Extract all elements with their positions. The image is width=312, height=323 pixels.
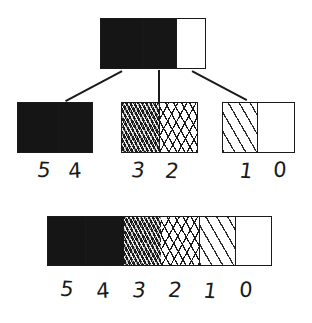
child-left-segment-5 [18,103,58,152]
label-right-0: 0 [271,159,290,181]
label-middle-2: 2 [161,161,182,183]
scale-segment-4 [85,217,123,265]
label-middle-3: 3 [128,160,149,181]
child-left-segment-4 [58,103,92,152]
child-bar-right [222,102,295,153]
child-right-segment-0 [257,103,294,152]
scale-segment-5 [48,217,85,265]
child-middle-segment-3 [122,103,159,152]
root-segment-4 [142,19,177,68]
scale-label-2: 2 [164,280,185,302]
scale-segment-3 [124,217,161,265]
label-left-4: 4 [66,160,85,183]
scale-label-0: 0 [237,279,256,301]
scale-label-4: 4 [94,280,113,303]
root-segment-5 [101,19,142,68]
label-left-5: 5 [33,160,54,182]
connector-line-left [65,70,123,102]
child-right-segment-1 [223,103,257,152]
scale-segment-2 [161,217,198,265]
child-middle-segment-2 [159,103,197,152]
scale-label-3: 3 [129,280,150,301]
diagram-canvas: 5 4 3 2 1 0 5 4 3 2 1 0 [0,0,312,323]
scale-label-1: 1 [202,281,219,303]
label-right-1: 1 [238,161,255,183]
connector-line-middle [158,70,160,102]
root-segment-0 [176,19,205,68]
full-scale-bar [47,216,272,266]
scale-segment-0 [235,217,271,265]
root-bar [100,18,206,69]
child-bar-middle [121,102,198,153]
connector-line-right [191,70,247,101]
scale-segment-1 [199,217,235,265]
scale-label-5: 5 [56,279,77,301]
child-bar-left [17,102,93,153]
